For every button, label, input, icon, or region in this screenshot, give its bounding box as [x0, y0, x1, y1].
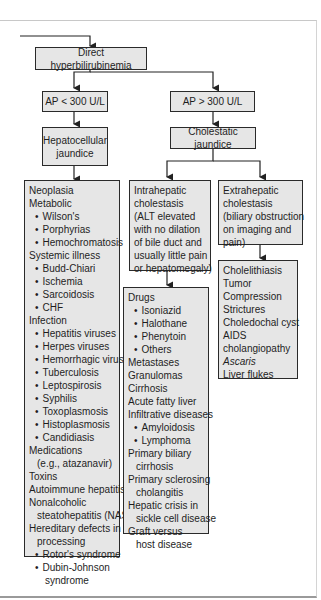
list-item: on imaging and	[223, 223, 298, 236]
list-item: Amyloidosis	[128, 421, 204, 434]
hepatocellular-label: Hepatocellular jaundice	[43, 134, 107, 160]
list-item: Candidiasis	[29, 431, 115, 444]
list-item: steatohepatitis (NASH)	[29, 509, 115, 522]
list-item: cholestasis	[223, 197, 298, 210]
list-item: Drugs	[128, 291, 204, 304]
list-item: cirrhosis	[128, 460, 204, 473]
list-item: usually little pain	[134, 249, 206, 262]
list-item: sickle cell disease	[128, 512, 204, 525]
list-item: Hemorrhagic viruses	[29, 353, 115, 366]
list-item: cholangitis	[128, 486, 204, 499]
list-item: Phenytoin	[128, 330, 204, 343]
list-item: with no dilation	[134, 223, 206, 236]
list-item: Rotor's syndrome	[29, 548, 115, 561]
list-item: (e.g., atazanavir)	[29, 457, 115, 470]
list-item: Extrahepatic	[223, 184, 298, 197]
list-item: Compression	[223, 290, 293, 303]
ap-high-label: AP > 300 U/L	[183, 95, 243, 108]
list-item: Dubin-Johnson	[29, 561, 115, 574]
list-item: Others	[128, 343, 204, 356]
list-item: Toxins	[29, 470, 115, 483]
list-item: host disease	[128, 538, 204, 551]
list-item: Tuberculosis	[29, 366, 115, 379]
ap-low-label: AP < 300 U/L	[45, 95, 105, 108]
extrahepatic-cholestasis-box: Extrahepaticcholestasis(biliary obstruct…	[218, 180, 303, 245]
extrahepatic-causes-list: CholelithiasisTumorCompressionStrictures…	[218, 260, 298, 379]
list-item: Hepatitis viruses	[29, 327, 115, 340]
list-item: Primary biliary	[128, 447, 204, 460]
list-item: or hepatomegaly)	[134, 262, 206, 275]
list-item: Autoimmune hepatitis	[29, 483, 115, 496]
list-item: Histoplasmosis	[29, 418, 115, 431]
list-item: Hepatic crisis in	[128, 499, 204, 512]
cholestatic-jaundice-box: Cholestatic jaundice	[170, 127, 256, 149]
list-item: (biliary obstruction	[223, 210, 298, 223]
direct-hyperbilirubinemia-box: Direct hyperbilirubinemia	[35, 47, 147, 70]
list-item: Choledochal cyst	[223, 316, 293, 329]
list-item: Hereditary defects in	[29, 522, 115, 535]
ap-low-box: AP < 300 U/L	[42, 91, 108, 112]
list-item: AIDS	[223, 329, 293, 342]
list-item: Cholelithiasis	[223, 264, 293, 277]
list-item: Graft versus	[128, 525, 204, 538]
list-item: Systemic illness	[29, 249, 115, 262]
list-item: CHF	[29, 301, 115, 314]
list-item: Cirrhosis	[128, 382, 204, 395]
list-item: Halothane	[128, 317, 204, 330]
list-item: Infection	[29, 314, 115, 327]
list-item: Sarcoidosis	[29, 288, 115, 301]
list-item: Porphyrias	[29, 223, 115, 236]
list-item: Metabolic	[29, 197, 115, 210]
list-item: (ALT elevated	[134, 210, 206, 223]
list-item: cholangiopathy	[223, 342, 293, 355]
list-item: pain)	[223, 236, 298, 249]
list-item: Hemochromatosis	[29, 236, 115, 249]
list-item: Wilson's	[29, 210, 115, 223]
hepatocellular-jaundice-box: Hepatocellular jaundice	[42, 127, 108, 166]
list-item: Metastases	[128, 356, 204, 369]
list-item: Lymphoma	[128, 434, 204, 447]
title-label: Direct hyperbilirubinemia	[36, 46, 146, 72]
list-item: Medications	[29, 444, 115, 457]
list-item: of bile duct and	[134, 236, 206, 249]
list-item: Ischemia	[29, 275, 115, 288]
list-item: processing	[29, 535, 115, 548]
list-item: Budd-Chiari	[29, 262, 115, 275]
list-item: Ascaris	[223, 355, 293, 368]
list-item: Neoplasia	[29, 184, 115, 197]
hepatocellular-causes-list: NeoplasiaMetabolicWilson'sPorphyriasHemo…	[24, 180, 120, 557]
ap-high-box: AP > 300 U/L	[170, 91, 255, 112]
cholestatic-label: Cholestatic jaundice	[171, 125, 255, 151]
list-item: Acute fatty liver	[128, 395, 204, 408]
list-item: Leptospirosis	[29, 379, 115, 392]
list-item: Liver flukes	[223, 368, 293, 381]
list-item: Granulomas	[128, 369, 204, 382]
list-item: Toxoplasmosis	[29, 405, 115, 418]
list-item: Strictures	[223, 303, 293, 316]
list-item: Tumor	[223, 277, 293, 290]
list-item: cholestasis	[134, 197, 206, 210]
list-item: Nonalcoholic	[29, 496, 115, 509]
intrahepatic-cholestasis-box: Intrahepaticcholestasis(ALT elevatedwith…	[129, 180, 211, 271]
list-item: Herpes viruses	[29, 340, 115, 353]
list-item: Primary sclerosing	[128, 473, 204, 486]
list-item: syndrome	[29, 574, 115, 587]
intrahepatic-causes-list: DrugsIsoniazidHalothanePhenytoinOthersMe…	[123, 287, 209, 534]
list-item: Syphilis	[29, 392, 115, 405]
list-item: Intrahepatic	[134, 184, 206, 197]
list-item: Infiltrative diseases	[128, 408, 204, 421]
list-item: Isoniazid	[128, 304, 204, 317]
